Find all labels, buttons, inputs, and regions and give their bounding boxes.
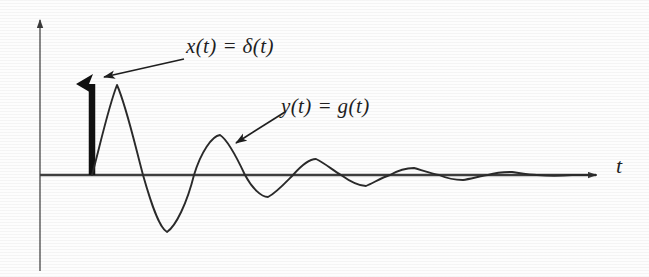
input-signal-label: x(t) = δ(t): [186, 36, 274, 57]
impulse-response-figure: x(t) = δ(t) y(t) = g(t) t: [0, 0, 649, 277]
t-axis-label: t: [616, 155, 623, 177]
plot-canvas: [0, 0, 649, 277]
input-annotation-leader: [104, 59, 184, 77]
output-signal-label: y(t) = g(t): [281, 96, 370, 117]
output-annotation-leader: [236, 112, 285, 143]
